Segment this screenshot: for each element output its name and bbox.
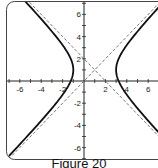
y-tick-label: 2	[77, 55, 82, 64]
right-branch	[116, 0, 158, 168]
x-tick-label: -4	[38, 85, 46, 94]
y-tick-label: -4	[74, 121, 82, 130]
hyperbola-plot: -6-4-2246642-2-4-6	[0, 0, 158, 168]
y-tick-label: -2	[74, 99, 82, 108]
x-tick-label: 4	[125, 85, 130, 94]
y-tick-label: -6	[74, 144, 82, 153]
y-tick-label: 6	[77, 10, 82, 19]
x-tick-label: 6	[146, 85, 151, 94]
figure-caption: Figure 20	[0, 156, 158, 168]
axes	[6, 1, 158, 160]
x-tick-label: -6	[16, 85, 24, 94]
left-branch	[0, 0, 73, 168]
y-tick-label: 4	[77, 33, 82, 42]
x-tick-label: -2	[59, 85, 67, 94]
x-tick-label: 2	[103, 85, 108, 94]
